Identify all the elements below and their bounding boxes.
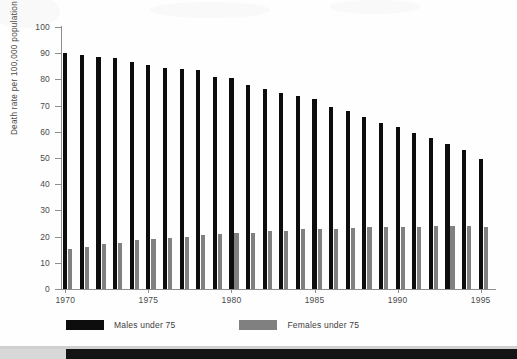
y-tick-mark <box>55 184 61 185</box>
x-tick-label: 1975 <box>126 296 170 305</box>
y-tick-label: 10 <box>8 259 50 268</box>
bar-males-1993 <box>445 144 449 289</box>
plot-area <box>62 27 494 289</box>
scan-artifact <box>330 0 420 14</box>
bar-females-1979 <box>218 234 222 289</box>
bar-males-1975 <box>146 65 150 289</box>
x-tick-mark <box>315 289 316 293</box>
bar-males-1978 <box>196 70 200 289</box>
bar-males-1983 <box>279 93 283 290</box>
legend-label-females: Females under 75 <box>287 321 359 330</box>
y-tick-mark <box>55 132 61 133</box>
x-tick-mark <box>398 289 399 293</box>
bar-females-1989 <box>384 227 388 289</box>
scan-artifact <box>150 2 270 18</box>
legend-label-males: Males under 75 <box>114 321 175 330</box>
scan-band <box>0 349 517 359</box>
y-tick-label: 60 <box>8 128 50 137</box>
bar-males-1970 <box>63 53 67 289</box>
y-tick-mark <box>55 106 61 107</box>
bar-females-1988 <box>367 227 371 289</box>
gray-swatch-icon <box>239 320 277 330</box>
bar-males-1981 <box>246 85 250 289</box>
bar-males-1989 <box>379 123 383 289</box>
bar-males-1987 <box>346 111 350 289</box>
bar-males-1979 <box>213 77 217 289</box>
bar-females-1995 <box>484 227 488 289</box>
x-tick-label: 1980 <box>209 296 253 305</box>
y-tick-mark <box>55 158 61 159</box>
y-tick-mark <box>55 27 61 28</box>
bar-males-1971 <box>80 55 84 289</box>
x-tick-label: 1970 <box>43 296 87 305</box>
bar-females-1987 <box>351 228 355 289</box>
x-axis-line <box>61 289 496 290</box>
bar-males-1976 <box>163 68 167 289</box>
x-tick-label: 1995 <box>459 296 503 305</box>
legend-item-females: Females under 75 <box>239 320 359 330</box>
y-tick-label: 80 <box>8 75 50 84</box>
y-tick-label: 40 <box>8 180 50 189</box>
bar-females-1990 <box>401 227 405 289</box>
bar-males-1992 <box>429 138 433 289</box>
bar-females-1974 <box>135 240 139 289</box>
bar-males-1974 <box>130 62 134 289</box>
x-tick-label: 1985 <box>293 296 337 305</box>
bar-females-1977 <box>185 237 189 289</box>
y-tick-label: 30 <box>8 206 50 215</box>
bar-males-1990 <box>396 127 400 289</box>
bar-females-1973 <box>118 243 122 289</box>
legend-item-males: Males under 75 <box>66 320 175 330</box>
bar-females-1972 <box>102 244 106 289</box>
chart-figure: Death rate per 100,000 population 010203… <box>0 0 517 359</box>
bar-males-1972 <box>96 57 100 289</box>
y-tick-label: 20 <box>8 233 50 242</box>
bar-females-1991 <box>417 227 421 289</box>
y-tick-label: 90 <box>8 49 50 58</box>
bar-males-1985 <box>312 99 316 289</box>
y-tick-label: 100 <box>8 23 50 32</box>
black-swatch-icon <box>66 320 104 330</box>
bar-females-1986 <box>334 229 338 289</box>
bar-males-1977 <box>180 69 184 289</box>
bar-males-1980 <box>229 78 233 289</box>
y-tick-mark <box>55 289 61 290</box>
x-tick-label: 1990 <box>376 296 420 305</box>
y-tick-mark <box>55 210 61 211</box>
bar-females-1982 <box>268 231 272 289</box>
bar-females-1975 <box>151 239 155 289</box>
x-tick-mark <box>148 289 149 293</box>
bar-females-1980 <box>234 233 238 289</box>
scan-band-left-gap <box>0 349 66 359</box>
x-tick-mark <box>481 289 482 293</box>
bar-males-1973 <box>113 58 117 289</box>
y-tick-mark <box>55 237 61 238</box>
y-tick-label: 0 <box>8 285 50 294</box>
y-tick-mark <box>55 79 61 80</box>
bar-females-1976 <box>168 238 172 289</box>
bar-males-1995 <box>479 159 483 289</box>
y-tick-label: 50 <box>8 154 50 163</box>
chart-legend: Males under 75 Females under 75 <box>66 317 359 333</box>
x-tick-mark <box>65 289 66 293</box>
bar-females-1994 <box>467 226 471 289</box>
bar-females-1993 <box>450 226 454 289</box>
y-tick-mark <box>55 263 61 264</box>
bar-females-1971 <box>85 247 89 289</box>
bar-females-1985 <box>318 229 322 289</box>
bar-males-1986 <box>329 107 333 289</box>
bar-females-1984 <box>301 229 305 289</box>
y-tick-mark <box>55 53 61 54</box>
bar-males-1994 <box>462 150 466 289</box>
bar-females-1978 <box>201 235 205 289</box>
bar-males-1982 <box>263 89 267 289</box>
bar-females-1983 <box>284 231 288 289</box>
bar-males-1988 <box>362 117 366 289</box>
bar-males-1991 <box>412 133 416 289</box>
bar-females-1970 <box>68 249 72 289</box>
x-tick-mark <box>231 289 232 293</box>
bar-males-1984 <box>296 96 300 289</box>
bar-females-1992 <box>434 226 438 289</box>
bar-females-1981 <box>251 233 255 289</box>
y-tick-label: 70 <box>8 102 50 111</box>
